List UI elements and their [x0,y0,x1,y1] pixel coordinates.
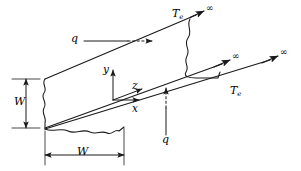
label-axis-y: y [103,64,109,75]
label-flux-bottom: q [162,134,169,145]
label-flux-top: q [71,33,78,44]
plate-left-wavy-edge [43,79,46,128]
label-width-vertical: W [14,96,25,107]
label-temperature-top: Te [172,8,183,20]
infinity-arrow-bottom [262,56,278,63]
label-width-horizontal: W [77,146,88,157]
plate-right-wavy-edge [185,19,220,78]
label-infinity-bottom: ∞ [280,48,288,57]
figure-canvas: Te Te q q y z x W W ∞ ∞ ∞ [0,0,301,171]
label-axis-x: x [132,103,138,114]
label-infinity-middle: ∞ [232,52,240,61]
plate-bottom-edge [45,64,222,128]
label-axis-z: z [132,80,138,91]
plate-top-edge [45,15,196,79]
plate-bottom-wavy-edge [45,127,124,134]
infinity-arrow-middle [214,60,230,67]
diagram-svg [0,0,301,171]
infinity-arrow-top [190,11,204,18]
label-infinity-top: ∞ [206,4,214,13]
label-temperature-right: Te [230,85,241,97]
